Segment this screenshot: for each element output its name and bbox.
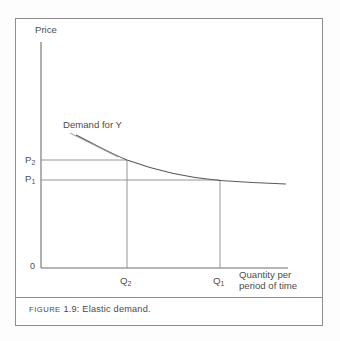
caption-number: 1.9:	[63, 304, 79, 314]
quantity-label-q1-subscript: 1	[220, 280, 224, 287]
curve-label-leader-line	[70, 133, 118, 157]
caption-text: Elastic demand.	[82, 304, 150, 314]
figure-container: Price Demand for Y P2 P1 0 Q2 Q1 Quantit…	[0, 0, 340, 341]
figure-caption: FIGURE 1.9: Elastic demand.	[29, 304, 151, 314]
quantity-label-q2-subscript: 2	[127, 280, 131, 287]
demand-curve-label: Demand for Y	[63, 119, 122, 130]
y-axis-label: Price	[35, 24, 57, 35]
price-label-p1-subscript: 1	[31, 178, 35, 185]
x-axis-label: Quantity perperiod of time	[239, 269, 297, 292]
x-axis-label-line1: Quantity per	[239, 269, 291, 280]
quantity-label-q2: Q2	[120, 275, 131, 286]
price-label-p1: P1	[25, 173, 35, 184]
x-axis-label-line2: period of time	[239, 280, 297, 291]
origin-label: 0	[30, 261, 35, 272]
caption-prefix: FIGURE	[29, 305, 61, 314]
caption-divider	[15, 297, 323, 298]
demand-curve	[76, 135, 286, 184]
price-label-p2-subscript: 2	[31, 159, 35, 166]
price-label-p2: P2	[25, 154, 35, 165]
quantity-label-q1: Q1	[213, 275, 224, 286]
